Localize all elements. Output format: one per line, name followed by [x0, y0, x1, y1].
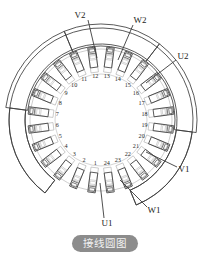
slot-number-3: 3 [73, 150, 76, 157]
coil-bar-11 [70, 51, 85, 72]
coil-bar-3 [54, 160, 72, 180]
coil-bar-16 [141, 73, 161, 91]
slot-number-5: 5 [59, 132, 62, 139]
slot-number-23: 23 [115, 156, 121, 163]
terminal-label-U1: U1 [102, 218, 113, 228]
figure-caption: 接线圆图 [0, 233, 209, 252]
slot-number-6: 6 [56, 121, 59, 128]
coil-bar-1 [88, 172, 98, 193]
coil-bar-17 [149, 89, 170, 104]
slot-number-14: 14 [115, 75, 121, 82]
slot-number-15: 15 [125, 81, 131, 88]
slot-number-20: 20 [139, 132, 145, 139]
diagram-stage: 123456789101112131415161718192021222324 … [0, 0, 209, 262]
caption-badge: 接线圆图 [72, 235, 138, 252]
slot-number-9: 9 [65, 89, 68, 96]
outer-arc-layer [6, 24, 197, 205]
slot-number-11: 11 [81, 75, 87, 82]
winding-connection-diagram: 123456789101112131415161718192021222324 … [0, 0, 209, 262]
slot-number-22: 22 [125, 150, 131, 157]
coil-bar-22 [130, 160, 148, 180]
terminal-lead-layer [88, 20, 177, 218]
coil-bar-6 [28, 123, 49, 133]
arc-bottom [9, 28, 193, 205]
terminal-lead-U1 [100, 183, 104, 218]
coil-bar-layer [28, 47, 174, 193]
slot-number-1: 1 [94, 159, 97, 166]
terminal-label-W2: W2 [134, 15, 147, 25]
terminal-label-W1: W1 [148, 205, 161, 215]
slot-number-17: 17 [139, 99, 145, 106]
arc-left-upper [146, 44, 197, 133]
coil-bar-4 [41, 149, 61, 167]
terminal-label-V1: V1 [179, 164, 190, 174]
slot-number-8: 8 [59, 99, 62, 106]
coil-bar-23 [116, 163, 130, 182]
coil-bar-9 [41, 73, 61, 91]
coil-bar-12 [88, 47, 98, 68]
slot-number-21: 21 [133, 142, 139, 149]
inner-guide-ring [30, 49, 172, 191]
coil-bar-19 [153, 123, 174, 133]
coil-bar-8 [39, 91, 58, 105]
slot-number-19: 19 [142, 121, 148, 128]
slot-number-13: 13 [104, 72, 110, 79]
slot-number-12: 12 [92, 72, 98, 79]
coil-bar-5 [32, 137, 53, 152]
coil-bar-15 [130, 60, 148, 80]
coil-bar-8 [32, 89, 53, 104]
slot-number-24: 24 [104, 159, 110, 166]
slot-number-2: 2 [83, 156, 86, 163]
terminal-lead-V1 [146, 152, 177, 167]
terminal-label-U2: U2 [178, 51, 189, 61]
coil-bar-5 [39, 135, 58, 149]
slot-number-10: 10 [71, 81, 77, 88]
coil-bar-10 [54, 60, 72, 80]
coil-bar-2 [70, 168, 85, 189]
coil-bar-13 [104, 47, 114, 68]
slot-number-4: 4 [65, 142, 68, 149]
coil-bar-2 [72, 163, 86, 182]
slot-number-16: 16 [133, 89, 139, 96]
terminal-lead-U2 [146, 60, 176, 83]
coil-bar-18 [153, 107, 174, 117]
terminal-label-V2: V2 [75, 10, 86, 20]
coil-bar-20 [149, 137, 170, 152]
slot-number-18: 18 [142, 110, 148, 117]
coil-bar-20 [144, 135, 163, 149]
coil-bar-7 [28, 107, 49, 117]
slot-number-7: 7 [56, 110, 59, 117]
coil-bar-17 [144, 91, 163, 105]
terminal-lead-W1 [120, 180, 147, 207]
coil-bar-24 [104, 172, 114, 193]
